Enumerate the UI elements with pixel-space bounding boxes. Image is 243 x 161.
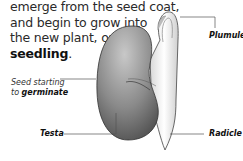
germinate-caption: Seed starting to germinate [11, 78, 68, 98]
radicle-label: Radicle [209, 129, 242, 138]
seed-testa [97, 26, 158, 140]
caption-line-1: Seed starting [11, 78, 65, 87]
testa-label: Testa [40, 129, 64, 138]
caption-line-2-prefix: to [11, 88, 22, 97]
plumule-leader [180, 17, 215, 28]
plumule-label: Plumule [209, 31, 243, 40]
shoot-and-radicle [150, 12, 178, 150]
germinate-term: germinate [22, 88, 69, 97]
